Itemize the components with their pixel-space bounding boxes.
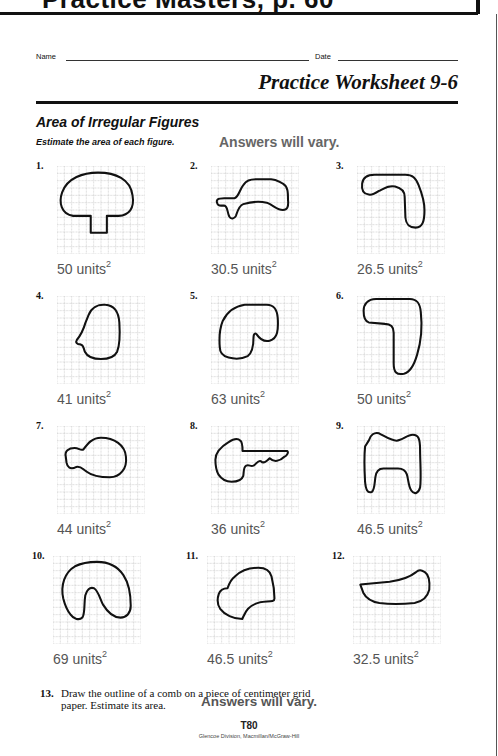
- answer-value: 44 units: [57, 521, 106, 537]
- answer-exponent: 2: [260, 389, 265, 399]
- answer: 30.5 units2: [211, 261, 277, 277]
- banner-divider: [476, 0, 480, 14]
- problem-number: 7.: [36, 420, 44, 431]
- section-title: Area of Irregular Figures: [36, 114, 199, 130]
- banner-rule: [0, 12, 478, 15]
- answer: 50 units2: [57, 261, 111, 277]
- page-number: T80: [0, 720, 498, 731]
- problem-number: 4.: [36, 290, 44, 301]
- grid-figure-kidney: [211, 296, 299, 384]
- answer: 50 units2: [357, 391, 411, 407]
- problem-number: 10.: [32, 550, 45, 561]
- problem-6: 6. 50 units2: [336, 290, 486, 415]
- problem-2: 2. 30.5 units2: [190, 160, 340, 285]
- question-text-line2: paper. Estimate its area.: [61, 699, 166, 711]
- problem-12: 12. 32.5 units2: [332, 550, 482, 675]
- grid-figure-head-profile: [57, 296, 145, 384]
- problem-8: 8. 36 units2: [190, 420, 340, 545]
- answer-value: 32.5 units: [353, 651, 414, 667]
- answer-value: 30.5 units: [211, 261, 272, 277]
- answer-exponent: 2: [272, 259, 277, 269]
- grid-figure-tooth: [357, 426, 445, 514]
- grid-figure-canoe: [353, 556, 441, 644]
- answer-exponent: 2: [414, 649, 419, 659]
- answer-value: 46.5 units: [207, 651, 268, 667]
- answer-exponent: 2: [418, 259, 423, 269]
- answer: 44 units2: [57, 521, 111, 537]
- problem-3: 3. 26.5 units2: [336, 160, 486, 285]
- grid-figure-balloon: [57, 426, 145, 514]
- problem-10: 10. 69 units2: [32, 550, 182, 675]
- answer: 36 units2: [211, 521, 265, 537]
- banner: Practice Masters, p. 60: [0, 0, 498, 14]
- problem-7: 7. 44 units2: [36, 420, 186, 545]
- question-13-answer: Answers will vary.: [201, 694, 317, 709]
- problem-number: 1.: [36, 160, 44, 171]
- problem-number: 6.: [336, 290, 344, 301]
- title-rule: [36, 101, 458, 104]
- answer-value: 26.5 units: [357, 261, 418, 277]
- date-label: Date: [315, 52, 331, 61]
- name-label: Name: [36, 52, 56, 61]
- problem-number: 12.: [332, 550, 345, 561]
- problem-number: 9.: [336, 420, 344, 431]
- name-field[interactable]: [66, 60, 309, 61]
- grid-figure-hook: [357, 166, 445, 254]
- answer: 63 units2: [211, 391, 265, 407]
- worksheet-title: Practice Worksheet 9-6: [258, 70, 458, 95]
- grid-figure-blob: [211, 166, 299, 254]
- answer-value: 63 units: [211, 391, 260, 407]
- problem-5: 5. 63 units2: [190, 290, 340, 415]
- answer-value: 36 units: [211, 521, 260, 537]
- answer-exponent: 2: [102, 649, 107, 659]
- answer-exponent: 2: [268, 649, 273, 659]
- problem-number: 5.: [190, 290, 198, 301]
- answer-exponent: 2: [406, 389, 411, 399]
- publisher-credit: Glencoe Division, Macmillan/McGraw-Hill: [0, 733, 498, 739]
- grid-figure-key: [211, 426, 299, 514]
- answer-exponent: 2: [106, 389, 111, 399]
- problem-9: 9. 46.5 units2: [336, 420, 486, 545]
- answer: 69 units2: [53, 651, 107, 667]
- answer: 41 units2: [57, 391, 111, 407]
- answer-value: 50 units: [57, 261, 106, 277]
- instructions: Estimate the area of each figure.: [36, 137, 175, 147]
- answer-value: 46.5 units: [357, 521, 418, 537]
- grid-figure-number-seven: [357, 296, 445, 384]
- problem-number: 2.: [190, 160, 198, 171]
- page-edge: [496, 14, 497, 756]
- problem-number: 3.: [336, 160, 344, 171]
- grid-figure-mushroom: [57, 166, 145, 254]
- answer: 26.5 units2: [357, 261, 423, 277]
- answer-value: 41 units: [57, 391, 106, 407]
- answer: 46.5 units2: [207, 651, 273, 667]
- answer-note: Answers will vary.: [219, 134, 339, 150]
- grid-figure-irregular-blob: [207, 556, 295, 644]
- answer-value: 69 units: [53, 651, 102, 667]
- answer-value: 50 units: [357, 391, 406, 407]
- answer: 32.5 units2: [353, 651, 419, 667]
- problem-4: 4. 41 units2: [36, 290, 186, 415]
- answer-exponent: 2: [260, 519, 265, 529]
- problem-1: 1. 50 units2: [36, 160, 186, 285]
- name-date-row: Name Date: [36, 50, 458, 62]
- answer-exponent: 2: [106, 519, 111, 529]
- answer: 46.5 units2: [357, 521, 423, 537]
- problem-11: 11. 46.5 units2: [186, 550, 336, 675]
- date-field[interactable]: [338, 60, 458, 61]
- grid-figure-arch: [53, 556, 141, 644]
- answer-exponent: 2: [418, 519, 423, 529]
- question-number: 13.: [40, 687, 54, 699]
- problem-number: 8.: [190, 420, 198, 431]
- answer-exponent: 2: [106, 259, 111, 269]
- problem-number: 11.: [186, 550, 198, 561]
